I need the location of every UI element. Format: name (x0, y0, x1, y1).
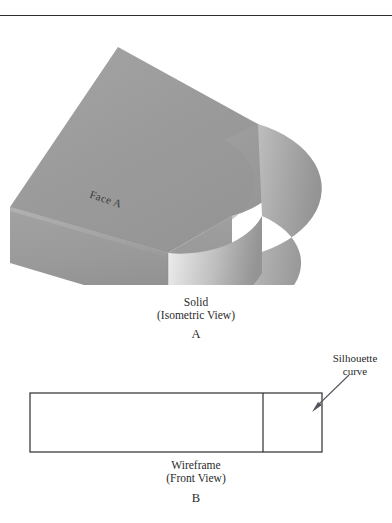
wireframe-caption-line2: (Front View) (0, 472, 392, 486)
top-divider-rule (0, 15, 392, 16)
wireframe-outer-rectangle (30, 393, 322, 452)
silhouette-leader-line (316, 375, 349, 407)
solid-caption-line2: (Isometric View) (0, 309, 392, 323)
solid-isometric-svg (0, 20, 392, 285)
solid-caption-line1: Solid (0, 296, 392, 310)
wireframe-caption-line1: Wireframe (0, 459, 392, 473)
silhouette-annotation-line2: curve (318, 365, 392, 378)
silhouette-annotation-line1: Silhouette (318, 352, 392, 365)
solid-caption-letter: A (0, 327, 392, 342)
silhouette-curve-annotation: Silhouette curve (318, 352, 392, 378)
wireframe-caption-letter: B (0, 491, 392, 506)
solid-isometric-figure: Face A (0, 20, 392, 285)
figure-page: Face A Solid (Isometric View) A Face A S… (0, 0, 392, 523)
